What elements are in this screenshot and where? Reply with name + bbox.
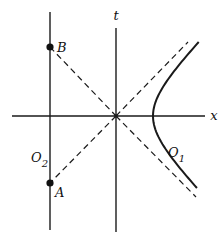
spacetime-diagram: x t O2 O1 B A [0,0,224,240]
o1-main: O [168,145,179,160]
origin-point [114,114,118,118]
dashed-line-B-to-origin [50,47,116,116]
t-axis-label: t [113,8,119,23]
event-a-point [46,179,53,186]
o1-subscript: 1 [179,153,185,164]
x-axis-label: x [210,108,218,123]
observer-o1-label: O1 [168,145,185,164]
observer-o2-label: O2 [31,150,48,169]
event-b-label: B [56,40,67,55]
o2-main: O [31,150,42,165]
event-a-label: A [54,185,64,200]
event-b-point [46,43,53,50]
dashed-line-origin-to-A [50,116,116,183]
o2-subscript: 2 [41,158,48,169]
dashed-line-light-cone-upper-right [116,42,188,116]
observer-o1-hyperbola [153,42,199,188]
dashed-light-lines [50,42,196,197]
